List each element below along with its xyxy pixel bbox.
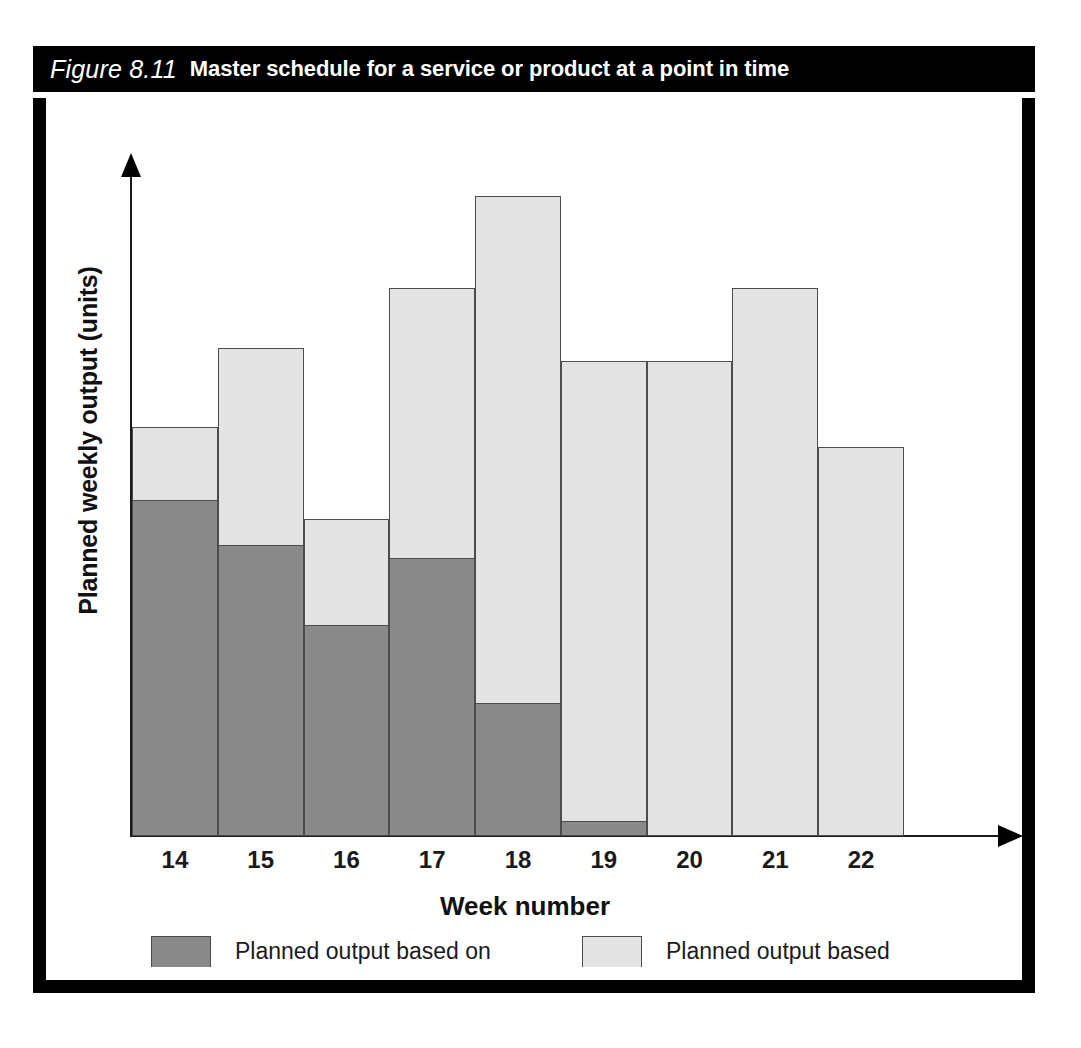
bar-segment-sales-forecasts xyxy=(133,428,217,500)
bar-week-21 xyxy=(732,288,818,836)
bar-week-14 xyxy=(132,427,218,836)
x-tick-label-17: 17 xyxy=(389,846,475,874)
bar-segment-sales-forecasts xyxy=(390,289,474,558)
x-tick-label-16: 16 xyxy=(304,846,390,874)
bar-segment-known-orders xyxy=(390,558,474,835)
bar-week-17 xyxy=(389,288,475,836)
bar-segment-known-orders xyxy=(476,703,560,835)
x-tick-label-22: 22 xyxy=(818,846,904,874)
legend-item-known-orders: Planned output based on known customer o… xyxy=(151,936,491,967)
bar-week-22 xyxy=(818,447,904,836)
bar-segment-sales-forecasts xyxy=(562,362,646,821)
figure-number: Figure 8.11 xyxy=(50,55,177,84)
chart-plot-area: Planned weekly output (units) Week numbe… xyxy=(46,98,1022,967)
x-tick-label-14: 14 xyxy=(132,846,218,874)
bar-segment-sales-forecasts xyxy=(476,197,560,703)
figure-container: Figure 8.11 Master schedule for a servic… xyxy=(33,46,1035,993)
bar-segment-sales-forecasts xyxy=(648,362,732,835)
legend-label-sales-forecasts: Planned output based on sales forecasts xyxy=(666,936,890,967)
bar-week-19 xyxy=(561,361,647,836)
bar-series-layer xyxy=(46,98,1022,967)
legend-swatch-sales-forecasts-icon xyxy=(582,936,642,967)
x-tick-label-21: 21 xyxy=(732,846,818,874)
bar-segment-known-orders xyxy=(133,500,217,835)
figure-title: Master schedule for a service or product… xyxy=(190,56,789,82)
x-tick-label-18: 18 xyxy=(475,846,561,874)
bar-week-20 xyxy=(647,361,733,836)
legend-item-sales-forecasts: Planned output based on sales forecasts xyxy=(582,936,890,967)
legend-swatch-known-orders-icon xyxy=(151,936,211,967)
figure-title-bar: Figure 8.11 Master schedule for a servic… xyxy=(33,46,1035,92)
x-tick-label-15: 15 xyxy=(218,846,304,874)
bar-segment-sales-forecasts xyxy=(305,520,389,625)
chart-legend: Planned output based on known customer o… xyxy=(130,936,1010,967)
bar-segment-known-orders xyxy=(219,545,303,835)
bar-segment-known-orders xyxy=(562,821,646,835)
bar-week-16 xyxy=(304,519,390,836)
bar-segment-sales-forecasts xyxy=(733,289,817,835)
x-axis-title: Week number xyxy=(130,891,920,922)
legend-label-known-orders: Planned output based on known customer o… xyxy=(235,936,491,967)
x-tick-label-19: 19 xyxy=(561,846,647,874)
bar-segment-known-orders xyxy=(305,625,389,835)
x-tick-label-20: 20 xyxy=(647,846,733,874)
bar-week-18 xyxy=(475,196,561,836)
bar-segment-sales-forecasts xyxy=(219,349,303,546)
bar-segment-sales-forecasts xyxy=(819,448,903,835)
bar-week-15 xyxy=(218,348,304,836)
